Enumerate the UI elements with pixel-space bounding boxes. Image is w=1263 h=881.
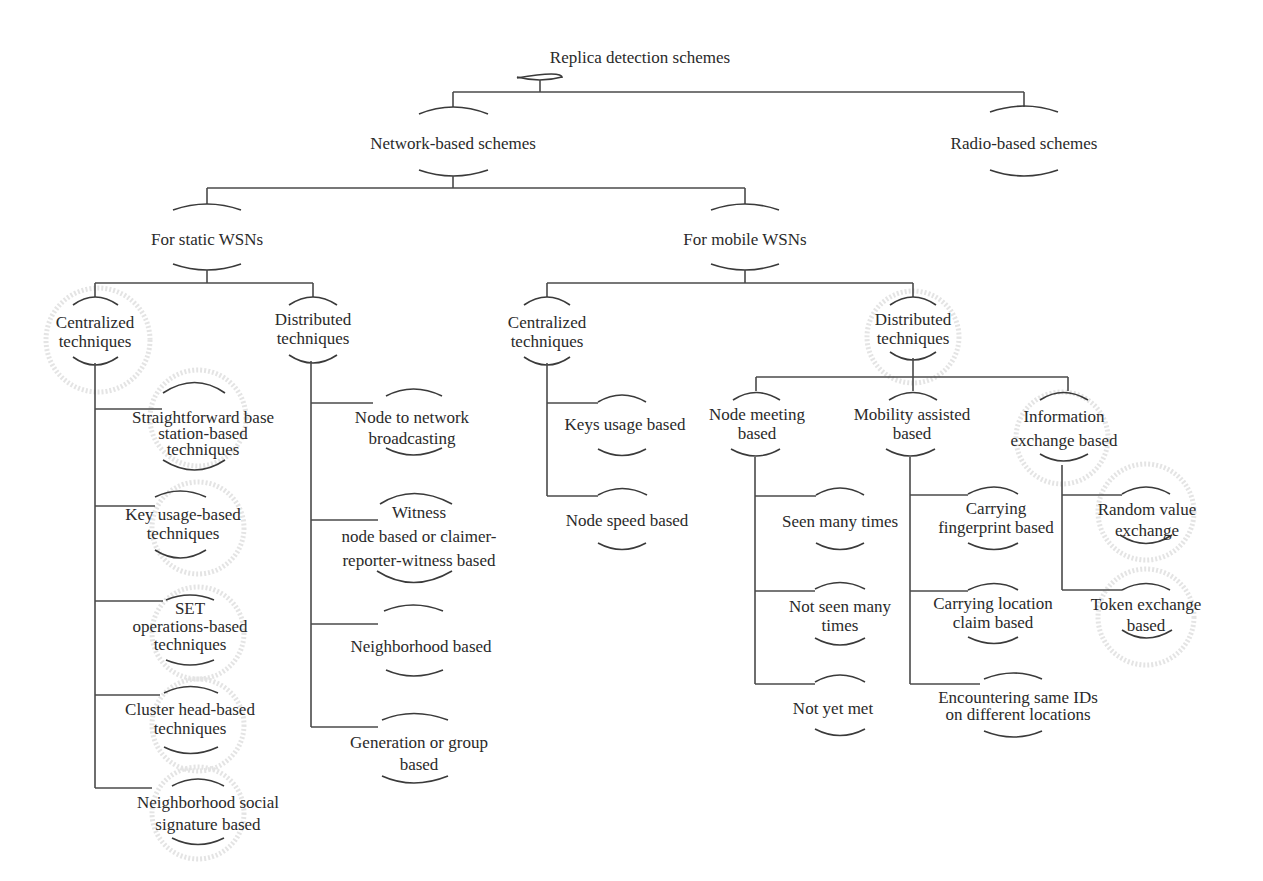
node-label: Centralized	[56, 313, 134, 332]
node-label: Radio-based schemes	[951, 134, 1098, 153]
node-label: fingerprint based	[938, 518, 1054, 537]
node-network-based-schemes: Network-based schemes	[370, 134, 536, 153]
node-mobile-distributed: Distributed techniques	[875, 310, 952, 348]
node-witness-based: Witness node based or claimer- reporter-…	[342, 501, 497, 573]
halo-decorations	[46, 288, 1194, 859]
node-generation-or-group-based: Generation or group based	[350, 732, 488, 776]
node-label: based	[1091, 615, 1202, 636]
node-set-operations-based: SET operations-based techniques	[132, 600, 247, 654]
node-label: Generation or group	[350, 732, 488, 754]
node-carrying-location-claim-based: Carrying location claim based	[933, 594, 1052, 632]
node-label: Distributed	[275, 310, 352, 329]
node-label: broadcasting	[355, 428, 469, 449]
node-label: Cluster head-based	[125, 700, 255, 719]
node-label: techniques	[125, 524, 241, 543]
node-not-seen-many-times: Not seen many times	[789, 597, 891, 635]
replica-detection-taxonomy-diagram: Replica detection schemes Network-based …	[0, 0, 1263, 881]
node-label: Not seen many	[789, 597, 891, 616]
node-label: Mobility assisted	[854, 405, 971, 424]
node-label: techniques	[875, 329, 952, 348]
node-label: based	[709, 424, 805, 443]
node-not-yet-met: Not yet met	[793, 699, 873, 718]
node-keys-usage-based: Keys usage based	[565, 415, 686, 434]
node-label: Not yet met	[793, 699, 873, 718]
node-label: Node speed based	[566, 511, 689, 530]
node-label: techniques	[132, 636, 247, 654]
node-node-to-network-broadcasting: Node to network broadcasting	[355, 407, 469, 449]
node-neighborhood-based: Neighborhood based	[350, 637, 491, 656]
node-label: For static WSNs	[151, 230, 263, 249]
node-label: operations-based	[132, 618, 247, 636]
node-encountering-same-ids: Encountering same IDs on different locat…	[938, 689, 1098, 723]
node-label: Witness	[342, 501, 497, 525]
node-label: exchange	[1098, 520, 1197, 541]
node-label: based	[350, 754, 488, 776]
node-label: Neighborhood social	[137, 792, 279, 814]
node-label: node based or claimer-	[342, 525, 497, 549]
node-mobile-wsns: For mobile WSNs	[683, 230, 806, 249]
node-static-centralized: Centralized techniques	[56, 313, 134, 351]
node-neighborhood-social-signature: Neighborhood social signature based	[137, 792, 279, 836]
node-key-usage-based: Key usage-based techniques	[125, 505, 241, 543]
node-carrying-fingerprint-based: Carrying fingerprint based	[938, 499, 1054, 537]
node-label: Node to network	[355, 407, 469, 428]
node-label: on different locations	[938, 706, 1098, 723]
node-straightforward-base-station: Straightforward base station-based techn…	[132, 410, 274, 458]
node-label: For mobile WSNs	[683, 230, 806, 249]
node-label: Carrying location	[933, 594, 1052, 613]
node-label: techniques	[132, 442, 274, 458]
node-label: Seen many times	[782, 512, 898, 531]
node-label: Information	[1010, 405, 1117, 429]
node-label: based	[854, 424, 971, 443]
node-label: claim based	[933, 613, 1052, 632]
node-label: Keys usage based	[565, 415, 686, 434]
node-label: Network-based schemes	[370, 134, 536, 153]
node-node-speed-based: Node speed based	[566, 511, 689, 530]
node-label: times	[789, 616, 891, 635]
node-label: signature based	[137, 814, 279, 836]
node-label: Node meeting	[709, 405, 805, 424]
node-label: Key usage-based	[125, 505, 241, 524]
node-radio-based-schemes: Radio-based schemes	[951, 134, 1098, 153]
node-mobile-centralized: Centralized techniques	[508, 313, 586, 351]
node-information-exchange-based: Information exchange based	[1010, 405, 1117, 453]
node-seen-many-times: Seen many times	[782, 512, 898, 531]
node-label: Carrying	[938, 499, 1054, 518]
node-label: exchange based	[1010, 429, 1117, 453]
node-label: techniques	[275, 329, 352, 348]
node-token-exchange-based: Token exchange based	[1091, 594, 1202, 636]
node-label: Neighborhood based	[350, 637, 491, 656]
node-static-wsns: For static WSNs	[151, 230, 263, 249]
node-label: Token exchange	[1091, 594, 1202, 615]
node-label: Encountering same IDs	[938, 689, 1098, 706]
node-label: Replica detection schemes	[550, 48, 730, 67]
node-label: Distributed	[875, 310, 952, 329]
node-random-value-exchange: Random value exchange	[1098, 499, 1197, 541]
node-static-distributed: Distributed techniques	[275, 310, 352, 348]
node-label: Random value	[1098, 499, 1197, 520]
node-cluster-head-based: Cluster head-based techniques	[125, 700, 255, 738]
node-mobility-assisted-based: Mobility assisted based	[854, 405, 971, 443]
node-label: techniques	[508, 332, 586, 351]
node-label: techniques	[125, 719, 255, 738]
node-node-meeting-based: Node meeting based	[709, 405, 805, 443]
node-label: SET	[132, 600, 247, 618]
node-replica-detection-schemes: Replica detection schemes	[550, 48, 730, 67]
node-label: techniques	[56, 332, 134, 351]
node-label: reporter-witness based	[342, 549, 497, 573]
node-label: Centralized	[508, 313, 586, 332]
